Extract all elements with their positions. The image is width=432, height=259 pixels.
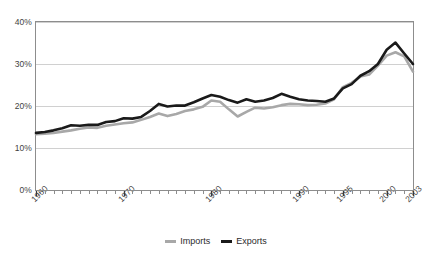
line-chart: 40% 30% 20% 10% 0% 1960 1970 1980 1990 1… <box>0 0 432 259</box>
legend-item-exports: Exports <box>221 236 267 246</box>
plot-area <box>0 0 432 259</box>
legend-label-exports: Exports <box>236 236 267 246</box>
chart-legend: Imports Exports <box>0 236 432 246</box>
data-series-group <box>36 43 413 135</box>
legend-item-imports: Imports <box>165 236 210 246</box>
gridlines <box>36 23 413 149</box>
legend-swatch-imports <box>165 240 176 243</box>
series-line-exports <box>36 43 413 133</box>
legend-swatch-exports <box>221 240 232 243</box>
legend-label-imports: Imports <box>180 236 210 246</box>
